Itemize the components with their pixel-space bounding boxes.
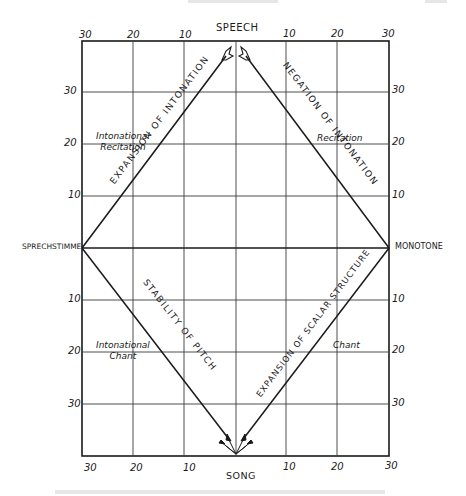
top-tick: 20 [331,28,344,39]
bottom-tick: 20 [331,461,344,472]
top-tick: 10 [283,28,296,39]
bottom-tick: 10 [283,461,296,472]
left-tick: 20 [68,345,81,356]
region-label-intonational-chant: Intonational Chant [96,340,150,362]
left-tick: 30 [64,85,77,96]
right-tick: 10 [392,293,405,304]
right-tick: 20 [392,344,405,355]
bottom-tick: 20 [130,462,143,473]
left-tick: 10 [68,189,81,200]
pole-label-monotone: MONOTONE [395,242,443,251]
right-tick: 30 [392,84,405,95]
right-tick: 10 [392,189,405,200]
diamond-edges [82,56,389,438]
region-label-chant: Chant [333,340,360,351]
left-tick: 10 [68,293,81,304]
edge-upper-right [246,56,389,248]
pole-label-speech: SPEECH [216,22,259,33]
right-tick: 20 [392,136,405,147]
top-tick: 30 [79,29,92,40]
region-line: Chant [96,351,150,362]
left-tick: 30 [68,398,81,409]
pole-label-sprechstimme: SPRECHSTIMME [22,242,81,251]
top-tick: 20 [127,29,140,40]
left-tick: 20 [64,137,77,148]
edge-lower-right [244,248,389,438]
region-line: Intonational [96,340,150,351]
top-tick: 30 [382,28,395,39]
pole-label-song: SONG [226,470,256,481]
bottom-tick: 30 [84,462,97,473]
right-tick: 30 [392,397,405,408]
bottom-tick: 30 [385,460,398,471]
top-tick: 10 [179,29,192,40]
bottom-tick: 10 [183,462,196,473]
